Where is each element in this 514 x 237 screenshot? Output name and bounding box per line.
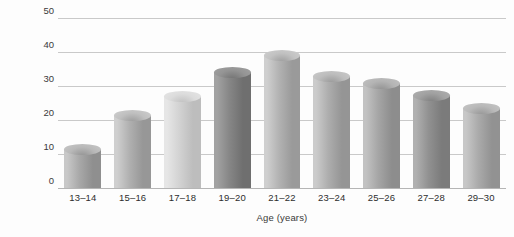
bar-body xyxy=(164,96,201,188)
x-axis-tick-label: 25–26 xyxy=(357,192,407,203)
bar-cap xyxy=(64,144,101,155)
y-axis-tick-label: 10 xyxy=(34,142,54,152)
x-axis-tick-label: 27–28 xyxy=(406,192,456,203)
x-axis-tick-label: 23–24 xyxy=(307,192,357,203)
y-axis-tick-label: 50 xyxy=(34,6,54,16)
plot-area: 01020304050 xyxy=(58,18,506,188)
x-axis-tick-label: 15–16 xyxy=(108,192,158,203)
bar xyxy=(164,91,201,188)
bar xyxy=(463,103,500,188)
bar-cap xyxy=(363,78,400,89)
bar-series xyxy=(58,18,506,188)
x-axis-tick-labels: 13–1415–1617–1819–2021–2223–2425–2627–28… xyxy=(58,192,506,208)
bar xyxy=(64,144,101,188)
bar-cap xyxy=(114,110,151,121)
x-axis-title: Age (years) xyxy=(58,212,506,223)
bar xyxy=(363,78,400,188)
y-axis-tick-label: 0 xyxy=(34,176,54,186)
bar-cap xyxy=(313,71,350,82)
bar xyxy=(264,50,301,188)
x-axis-tick-label: 17–18 xyxy=(158,192,208,203)
bar-body xyxy=(264,55,301,188)
bar xyxy=(114,110,151,188)
bar-cap xyxy=(413,90,450,101)
x-axis-tick-label: 19–20 xyxy=(207,192,257,203)
y-axis-tick-label: 40 xyxy=(34,40,54,50)
x-axis-tick-label: 21–22 xyxy=(257,192,307,203)
bar xyxy=(313,71,350,188)
bar-body xyxy=(363,83,400,188)
y-axis-tick-label: 20 xyxy=(34,108,54,118)
x-axis-tick-label: 29–30 xyxy=(456,192,506,203)
bar-body xyxy=(463,108,500,188)
bar-body xyxy=(214,72,251,188)
bar-body xyxy=(413,95,450,189)
bar-body xyxy=(114,115,151,188)
gridline xyxy=(58,188,506,189)
y-axis-tick-label: 30 xyxy=(34,74,54,84)
bar-cap xyxy=(463,103,500,114)
x-axis-tick-label: 13–14 xyxy=(58,192,108,203)
bar xyxy=(413,90,450,189)
bar-chart: Percentage 01020304050 13–1415–1617–1819… xyxy=(0,0,514,237)
bar-body xyxy=(313,76,350,188)
bar xyxy=(214,67,251,188)
